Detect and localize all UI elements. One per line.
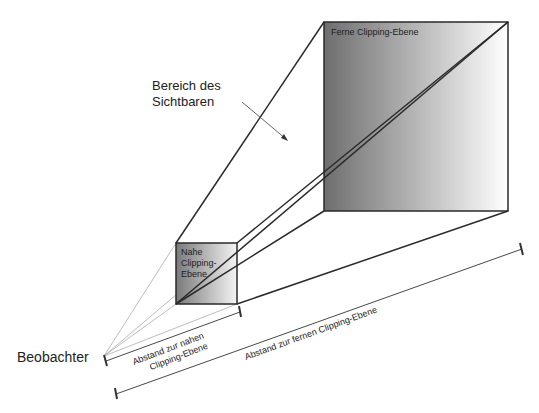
- far-plane-label: Ferne Clipping-Ebene: [331, 27, 419, 37]
- observer-label: Beobachter: [17, 349, 89, 365]
- near-plane-label-line3: Ebene: [181, 269, 207, 279]
- frustum-diagram: Ferne Clipping-Ebene Nahe Clipping- Eben…: [0, 0, 539, 413]
- far-clipping-plane: [324, 22, 508, 211]
- near-plane-label-line1: Nahe: [181, 247, 203, 257]
- visible-region-label-line2: Sichtbaren: [152, 94, 214, 109]
- visible-region-label-line1: Bereich des: [152, 78, 221, 93]
- near-plane-label-line2: Clipping-: [181, 258, 217, 268]
- far-distance-label: Abstand zur fernen Clipping-Ebene: [243, 305, 378, 362]
